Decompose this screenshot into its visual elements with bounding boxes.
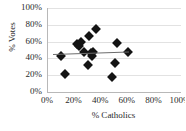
gridline-y bbox=[48, 25, 181, 26]
scatter-chart: % Votes 0%20%40%60%80%100% 0%20%40%60%80… bbox=[0, 0, 185, 131]
x-tick-label: 0% bbox=[41, 95, 53, 105]
data-point bbox=[60, 69, 70, 79]
y-tick-label: 20% bbox=[8, 70, 42, 79]
plot-area bbox=[47, 8, 181, 93]
y-axis-tick-labels: 0%20%40%60%80%100% bbox=[8, 0, 42, 95]
x-tick-label: 20% bbox=[65, 95, 82, 105]
x-axis-tick-labels: 0%20%40%60%80%100% bbox=[0, 95, 185, 107]
y-tick-label: 60% bbox=[8, 37, 42, 46]
x-tick-label: 80% bbox=[145, 95, 162, 105]
x-tick-label: 100% bbox=[170, 95, 186, 105]
y-tick-label: 40% bbox=[8, 53, 42, 62]
y-tick-label: 80% bbox=[8, 20, 42, 29]
y-tick-label: 100% bbox=[8, 3, 42, 12]
gridline-y bbox=[48, 92, 181, 93]
x-tick-label: 60% bbox=[119, 95, 136, 105]
data-point bbox=[83, 60, 93, 70]
gridline-y bbox=[48, 8, 181, 9]
data-point bbox=[84, 31, 94, 41]
data-point bbox=[112, 38, 122, 48]
x-axis-title: % Catholics bbox=[47, 110, 180, 120]
x-tick-label: 40% bbox=[92, 95, 109, 105]
data-point bbox=[107, 72, 117, 82]
